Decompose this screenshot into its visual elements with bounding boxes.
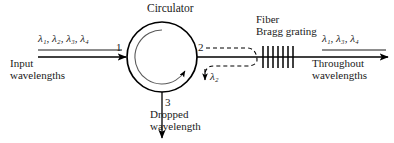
output-caption-line1: Throughout bbox=[312, 57, 364, 69]
input-caption-line2: wavelengths bbox=[10, 69, 65, 81]
output-caption: Throughout wavelengths bbox=[312, 57, 367, 82]
output-caption-line2: wavelengths bbox=[312, 69, 367, 81]
input-caption-line1: Input bbox=[10, 57, 33, 69]
port-2-label: 2 bbox=[198, 41, 204, 53]
dropped-caption-line1: Dropped bbox=[150, 108, 189, 120]
optical-add-drop-diagram: Circulator λ₁, λ₂, λ₃, λ₄ Input waveleng… bbox=[0, 0, 394, 143]
circulator-title: Circulator bbox=[147, 2, 194, 15]
fbg-caption-line2: Bragg grating bbox=[256, 25, 317, 37]
circulator-outer-circle bbox=[127, 22, 197, 92]
fiber-bragg-grating-ticks bbox=[263, 46, 293, 68]
port-1-label: 1 bbox=[116, 41, 122, 53]
circulator-inner-arc bbox=[135, 30, 185, 84]
dropped-caption-line2: wavelength bbox=[150, 120, 201, 132]
input-wavelengths-symbol: λ₁, λ₂, λ₃, λ₄ bbox=[38, 32, 89, 44]
fbg-caption-line1: Fiber bbox=[256, 13, 279, 25]
output-wavelengths-symbol: λ₁, λ₃, λ₄ bbox=[322, 32, 359, 44]
dropped-caption: Dropped wavelength bbox=[150, 108, 201, 133]
dropped-wavelength-symbol: λ₂ bbox=[210, 70, 219, 82]
fiber-bragg-grating-caption: Fiber Bragg grating bbox=[256, 13, 317, 38]
port-3-label: 3 bbox=[165, 96, 171, 108]
input-caption: Input wavelengths bbox=[10, 57, 65, 82]
